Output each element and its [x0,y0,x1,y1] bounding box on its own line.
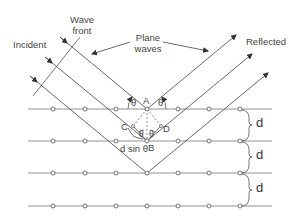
label-spacing-3: d [256,183,263,193]
label-path-difference: d sin θ [120,144,148,154]
atom [114,139,118,143]
label-incident: Incident [13,40,46,50]
label-theta-left: θ [131,98,136,108]
label-reflected: Reflected [246,37,286,47]
atom [207,171,211,175]
point-c-marker [132,125,135,128]
atom [114,204,118,208]
label-spacing-1: d [256,118,263,128]
spacing-braces [241,110,252,206]
atom [176,204,180,208]
atom-a [145,107,149,111]
label-point-c: C [121,122,128,132]
label-theta-inner-left: θ [139,129,144,139]
atom [145,171,149,175]
atom [176,139,180,143]
atom [51,204,55,208]
atom [83,204,87,208]
atom [207,204,211,208]
atom [51,107,55,111]
atom [145,204,149,208]
atom [207,107,211,111]
line-a-c [133,109,147,126]
atom [238,204,242,208]
label-spacing-2: d [256,150,263,160]
atom [51,139,55,143]
atom [238,171,242,175]
label-point-b: B [148,143,154,153]
label-plane-waves-2: waves [133,44,163,54]
atom [176,107,180,111]
label-wave-front-1: Wave [69,15,95,25]
label-theta-inner-right: θ [149,129,154,139]
construction-lines [133,109,161,141]
line-a-d [147,109,161,126]
label-wave-front-2: front [69,26,95,36]
label-point-d: D [163,124,170,134]
atom [83,139,87,143]
label-plane-waves-1: Plane [133,33,163,43]
lattice-planes [28,109,272,206]
atom [238,139,242,143]
atom [83,171,87,175]
atom [114,107,118,111]
atom [51,171,55,175]
atom [114,171,118,175]
atoms [51,107,242,208]
atom [83,107,87,111]
atom [176,171,180,175]
atom [238,107,242,111]
label-point-a: A [143,96,149,106]
atom [207,139,211,143]
incident-ray-3 [30,76,147,173]
label-theta-right: θ [158,98,163,108]
